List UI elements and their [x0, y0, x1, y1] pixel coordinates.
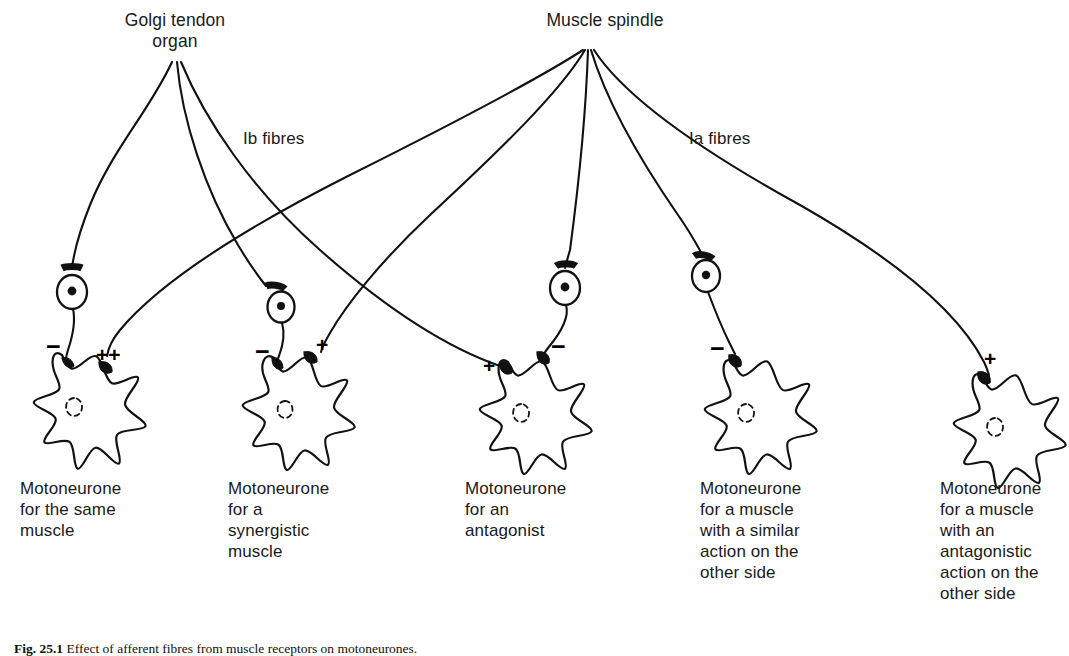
interneuron-nucleus-3 — [561, 283, 570, 292]
ib-fibre-1 — [72, 62, 172, 268]
synapse-bouton-2a — [272, 358, 283, 370]
ib-fibre-2 — [177, 62, 266, 286]
motoneurone-soma-4 — [705, 360, 817, 474]
interneuron-bouton-3 — [556, 264, 576, 266]
motoneurone-label-2: Motoneurone for a synergistic muscle — [228, 478, 378, 562]
interneuron-bouton-4 — [694, 255, 713, 259]
synapse-sign-mn1-excitatory: ++ — [96, 344, 121, 365]
neural-pathway-drawing — [0, 0, 1069, 656]
receptor-label-golgi-tendon-organ: Golgi tendon organ — [95, 10, 255, 52]
synapse-sign-mn1-inhibitory: − — [46, 334, 61, 359]
interneuron-bouton-1 — [62, 267, 82, 269]
motoneurone-label-1: Motoneurone for the same muscle — [20, 478, 170, 541]
figure-canvas: Golgi tendon organ Muscle spindle Ib fib… — [0, 0, 1069, 656]
interneuron-bouton-2 — [266, 285, 285, 289]
synapse-sign-mn2-excitatory: + — [316, 334, 328, 355]
motoneurone-soma-1 — [34, 353, 146, 469]
figure-caption-number: Fig. 25.1 — [14, 641, 67, 656]
motoneurone-nucleus-2 — [278, 401, 293, 418]
interneuron-nucleus-2 — [277, 302, 285, 310]
motoneurone-soma-2 — [243, 356, 355, 470]
fibre-label-ia: Ia fibres — [689, 128, 750, 149]
figure-caption-text: Effect of afferent fibres from muscle re… — [67, 641, 418, 656]
synapse-bouton-1a — [62, 357, 74, 367]
synapse-bouton-3a — [500, 362, 513, 375]
synapse-sign-mn2-inhibitory: − — [255, 339, 270, 364]
interneuron-axon-2 — [277, 323, 284, 363]
motoneurone-soma-5 — [954, 374, 1066, 488]
figure-caption: Fig. 25.1 Effect of afferent fibres from… — [14, 641, 1054, 656]
receptor-label-muscle-spindle: Muscle spindle — [520, 10, 690, 31]
motoneurone-nucleus-3 — [513, 404, 529, 422]
fibre-label-ib: Ib fibres — [243, 128, 304, 149]
synapse-bouton-4a — [729, 355, 742, 368]
motoneurone-soma-3 — [480, 360, 592, 474]
interneuron-nucleus-4 — [702, 271, 710, 279]
ia-fibre-3 — [565, 50, 588, 268]
ia-fibre-5 — [594, 50, 989, 375]
motoneurone-nucleus-5 — [987, 418, 1003, 436]
synapse-sign-mn3-excitatory: + — [483, 355, 495, 376]
ia-fibre-4 — [591, 50, 702, 254]
motoneurone-label-5: Motoneurone for a muscle with an antagon… — [940, 478, 1069, 604]
synapse-sign-mn5-excitatory: + — [984, 348, 996, 369]
synapse-sign-mn4-inhibitory: − — [710, 336, 725, 361]
motoneurone-label-3: Motoneurone for an antagonist — [465, 478, 615, 541]
ib-fibre-3 — [181, 62, 500, 366]
synapse-sign-mn3-inhibitory: − — [551, 334, 566, 359]
ia-fibre-2 — [321, 50, 585, 352]
motoneurone-nucleus-1 — [66, 398, 82, 416]
interneuron-axon-1 — [66, 309, 74, 360]
motoneurone-label-4: Motoneurone for a muscle with a similar … — [700, 478, 850, 583]
motoneurone-nucleus-4 — [738, 404, 754, 422]
interneuron-nucleus-1 — [68, 287, 77, 296]
